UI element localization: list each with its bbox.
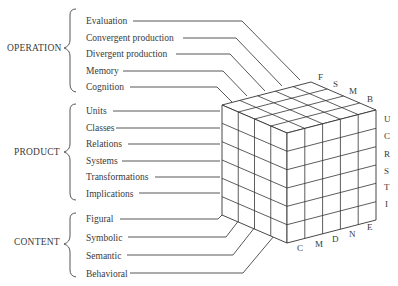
top-edge-label-b: B bbox=[367, 94, 373, 104]
bottom-edge-label-m: M bbox=[315, 239, 323, 249]
leader-convergent-production bbox=[183, 38, 282, 86]
leader-memory bbox=[123, 71, 247, 96]
group-label-operation: OPERATION bbox=[7, 43, 62, 53]
content-item-behavioral: Behavioral bbox=[86, 269, 128, 279]
product-item-systems: Systems bbox=[86, 156, 118, 166]
right-edge-label-r: R bbox=[384, 149, 390, 159]
content-item-figural: Figural bbox=[86, 214, 114, 224]
product-item-units: Units bbox=[86, 106, 107, 116]
right-edge-label-s: S bbox=[384, 166, 389, 176]
top-edge-label-f: F bbox=[318, 72, 323, 82]
operation-item-divergent-production: Divergent production bbox=[86, 49, 168, 59]
product-item-implications: Implications bbox=[86, 189, 134, 199]
bottom-edge-label-d: D bbox=[332, 234, 339, 244]
group-label-content: CONTENT bbox=[14, 237, 60, 247]
leader-symbolic bbox=[128, 215, 243, 237]
content-item-semantic: Semantic bbox=[86, 251, 121, 261]
leader-cognition bbox=[130, 87, 232, 102]
right-edge-label-c: C bbox=[384, 131, 390, 141]
right-edge-label-i: I bbox=[385, 199, 388, 209]
operation-item-convergent-production: Convergent production bbox=[86, 33, 174, 43]
leader-divergent-production bbox=[176, 54, 265, 91]
product-item-classes: Classes bbox=[86, 123, 115, 133]
leader-semantic bbox=[127, 222, 259, 255]
bottom-edge-label-e: E bbox=[367, 222, 373, 232]
operation-item-memory: Memory bbox=[86, 66, 119, 76]
brace-product bbox=[64, 104, 76, 200]
operation-item-evaluation: Evaluation bbox=[86, 16, 127, 26]
top-edge-label-m: M bbox=[349, 86, 357, 96]
product-item-transformations: Transformations bbox=[86, 172, 149, 182]
leader-behavioral bbox=[130, 236, 274, 273]
soi-cube bbox=[222, 82, 376, 243]
right-edge-label-u: U bbox=[384, 114, 391, 124]
leader-figural bbox=[120, 209, 228, 219]
group-label-product: PRODUCT bbox=[14, 147, 60, 157]
content-item-symbolic: Symbolic bbox=[86, 233, 122, 243]
brace-content bbox=[64, 213, 76, 277]
product-item-relations: Relations bbox=[86, 139, 122, 149]
bottom-edge-label-c: C bbox=[297, 243, 303, 253]
top-edge-label-s: S bbox=[333, 79, 338, 89]
structure-of-intellect-diagram: OPERATION PRODUCT CONTENT Evaluation Con… bbox=[0, 0, 398, 286]
bottom-edge-label-n: N bbox=[349, 229, 356, 239]
brace-operation bbox=[64, 9, 76, 92]
operation-item-cognition: Cognition bbox=[86, 82, 124, 92]
right-edge-label-t: T bbox=[384, 182, 390, 192]
